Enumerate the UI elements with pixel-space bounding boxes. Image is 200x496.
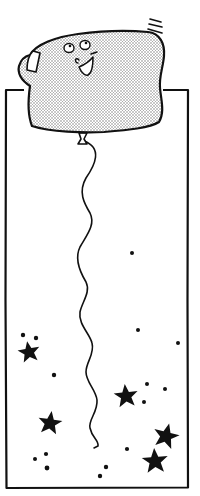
dot: [163, 387, 167, 391]
dot: [142, 400, 146, 404]
frame: [6, 90, 189, 488]
star-icon: [16, 339, 41, 363]
star-icon: [113, 383, 139, 408]
balloon-knot-icon: [78, 133, 87, 144]
dot: [34, 336, 38, 340]
dot: [21, 333, 25, 337]
stars: [16, 339, 182, 473]
star-icon: [37, 409, 64, 435]
balloon-illustration: Smiling toast-shaped balloon floating ab…: [0, 0, 200, 496]
dot: [104, 465, 108, 469]
right-eye-icon: [80, 41, 90, 50]
balloon-string: [78, 141, 99, 448]
motion-lines-icon: [148, 19, 162, 33]
dot: [176, 341, 180, 345]
dot: [125, 447, 129, 451]
dot: [45, 466, 50, 471]
star-icon: [141, 447, 169, 473]
toast-balloon: [19, 19, 164, 132]
left-eye-icon: [64, 44, 74, 53]
dot: [98, 474, 102, 478]
dot: [136, 328, 140, 332]
dot: [52, 373, 56, 377]
star-icon: [151, 420, 182, 450]
dot: [33, 457, 37, 461]
dot: [145, 382, 149, 386]
dot: [130, 251, 134, 255]
dot: [44, 452, 48, 456]
